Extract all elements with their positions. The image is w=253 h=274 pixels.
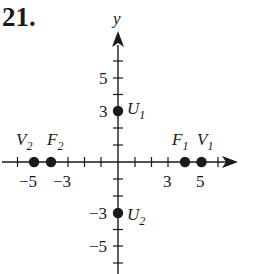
y-tick-label-neg3: −3 <box>89 204 107 223</box>
y-axis-arrow-icon <box>112 31 124 47</box>
point-label-f2: F2 <box>46 130 63 153</box>
y-tick-label-3: 3 <box>99 102 108 121</box>
point-f2 <box>46 157 56 167</box>
point-v1 <box>196 157 206 167</box>
point-f1 <box>180 157 190 167</box>
x-tick-label-neg3: −3 <box>53 172 71 191</box>
point-label-u1: U1 <box>127 99 145 122</box>
y-axis-label: y <box>111 9 121 28</box>
point-label-v1: V1 <box>197 130 213 153</box>
y-tick-label-neg5: −5 <box>89 237 107 256</box>
point-label-u2: U2 <box>127 205 145 228</box>
coordinate-plane: y −5 −3 3 5 5 3 −3 −5 V2 F2 F1 V1 U1 U2 <box>0 0 253 274</box>
x-tick-label-5: 5 <box>196 172 205 191</box>
x-tick-label-3: 3 <box>163 172 172 191</box>
x-tick-label-neg5: −5 <box>19 172 37 191</box>
point-u2 <box>113 208 123 218</box>
y-tick-label-5: 5 <box>99 69 108 88</box>
point-label-v2: V2 <box>16 130 32 153</box>
point-label-f1: F1 <box>171 130 188 153</box>
point-v2 <box>29 157 39 167</box>
point-u1 <box>113 106 123 116</box>
